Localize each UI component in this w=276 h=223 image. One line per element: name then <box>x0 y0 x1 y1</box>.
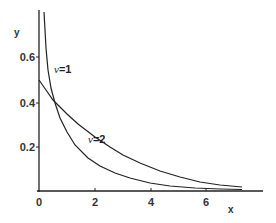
curve-nu-1 <box>44 12 242 190</box>
x-axis-label: x <box>228 204 234 215</box>
curve-label-nu-2: ν=2 <box>88 133 105 145</box>
chart: 0 2 4 6 0.2 0.4 0.6 y x ν=1 ν=2 <box>0 0 276 223</box>
y-ticks: 0.2 0.4 0.6 <box>20 51 39 153</box>
y-tick-label: 0.6 <box>20 51 35 63</box>
x-tick-label: 0 <box>36 196 42 208</box>
y-tick-label: 0.4 <box>20 97 36 109</box>
x-tick-label: 6 <box>203 196 209 208</box>
y-tick-label: 0.2 <box>20 141 35 153</box>
y-axis-label: y <box>14 27 20 38</box>
x-tick-label: 4 <box>148 196 155 208</box>
x-tick-label: 2 <box>92 196 98 208</box>
curve-label-nu-1: ν=1 <box>54 63 71 75</box>
curve-nu-2 <box>39 80 242 187</box>
